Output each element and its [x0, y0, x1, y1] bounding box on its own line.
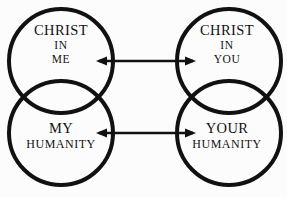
label-christ-in-me-line3: ME: [0, 54, 122, 66]
label-christ-in-me-line1: CHRIST: [0, 23, 122, 38]
venn-diagram-figure: CHRIST IN ME CHRIST IN YOU MY HUMANITY Y…: [0, 0, 287, 197]
label-your-humanity: YOUR HUMANITY: [166, 121, 287, 150]
label-christ-in-you: CHRIST IN YOU: [166, 23, 287, 65]
label-your-humanity-line2: HUMANITY: [166, 138, 287, 150]
label-christ-in-me: CHRIST IN ME: [0, 23, 122, 65]
label-my-humanity-line1: MY: [0, 121, 122, 136]
label-christ-in-you-line3: YOU: [166, 54, 287, 66]
label-christ-in-you-line1: CHRIST: [166, 23, 287, 38]
label-christ-in-me-line2: IN: [0, 40, 122, 52]
label-my-humanity-line2: HUMANITY: [0, 138, 122, 150]
label-my-humanity: MY HUMANITY: [0, 121, 122, 150]
label-christ-in-you-line2: IN: [166, 40, 287, 52]
label-your-humanity-line1: YOUR: [166, 121, 287, 136]
